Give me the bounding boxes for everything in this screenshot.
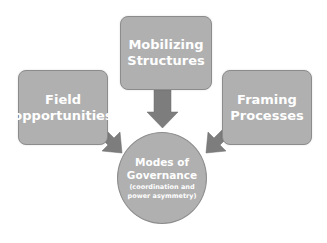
node-label-line1: Framing <box>230 92 303 108</box>
node-framing-processes: Framing Processes <box>222 70 312 145</box>
node-label-line1: Mobilizing <box>127 37 204 53</box>
node-modes-of-governance: Modes of Governance (coordination and po… <box>117 132 207 224</box>
node-label-line2: Structures <box>127 53 204 69</box>
node-label-line2: opportunities <box>13 108 112 124</box>
node-field-opportunities: Field opportunities <box>18 70 108 145</box>
node-label-line2: Governance <box>127 169 197 182</box>
arrow-down-icon <box>147 89 178 128</box>
node-label-line1: Field <box>13 92 112 108</box>
node-sublabel-line1: (coordination and <box>129 183 194 192</box>
node-sublabel-line2: power asymmetry) <box>128 192 197 201</box>
node-mobilizing-structures: Mobilizing Structures <box>120 16 212 90</box>
node-label-line1: Modes of <box>135 156 189 169</box>
diagram: Mobilizing Structures Field opportunitie… <box>0 0 327 243</box>
node-label-line2: Processes <box>230 108 303 124</box>
